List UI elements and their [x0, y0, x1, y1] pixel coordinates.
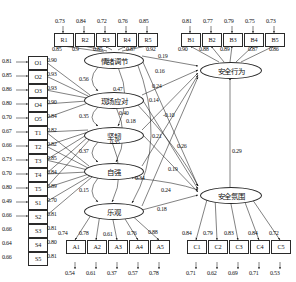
indicator-c5[interactable]: C5	[271, 240, 291, 254]
cov-qxtj-lg: 0.21	[152, 133, 161, 139]
indicator-o3[interactable]: O3	[28, 84, 48, 98]
error-a2: 0.61	[86, 270, 95, 276]
indicator-r4[interactable]: R4	[117, 33, 137, 47]
indicator-r5[interactable]: R5	[138, 33, 158, 47]
error-o4: 0.80	[2, 100, 11, 106]
indicator-o4[interactable]: O4	[28, 98, 48, 112]
loading-r3: 0.85	[93, 46, 102, 52]
indicator-b4[interactable]: B4	[244, 33, 264, 47]
indicator-a1[interactable]: A1	[66, 240, 86, 254]
indicator-t4[interactable]: T4	[28, 168, 48, 182]
indicator-t1[interactable]: T1	[28, 126, 48, 140]
path-jr-aqfw: 0.24	[161, 187, 170, 193]
cov-qxtj-jr: 0.47	[113, 86, 122, 92]
indicator-a4[interactable]: A4	[129, 240, 149, 254]
indicator-a5[interactable]: A5	[150, 240, 170, 254]
cov-qxtj-xcyd: 0.56	[79, 76, 88, 82]
indicator-s1[interactable]: S1	[28, 196, 48, 210]
loading-b4: 0.87	[248, 46, 257, 52]
loading-a5: 0.88	[148, 229, 157, 235]
loading-t4: 0.84	[47, 169, 56, 175]
error-o5: 0.70	[2, 114, 11, 120]
path-qxtj-aqxw: 0.19	[158, 53, 167, 59]
error-t3: 0.73	[2, 156, 11, 162]
cov-zq-lg: 0.15	[79, 187, 88, 193]
error-a1: 0.54	[65, 270, 74, 276]
loading-c2: 0.79	[203, 230, 212, 236]
indicator-r2[interactable]: R2	[75, 33, 95, 47]
indicator-c2[interactable]: C2	[208, 240, 228, 254]
loading-r4: 0.87	[126, 46, 135, 52]
loading-s4: 0.80	[47, 239, 56, 245]
error-b3: 0.79	[224, 18, 233, 24]
indicator-o2[interactable]: O2	[28, 70, 48, 84]
indicator-b5[interactable]: B5	[265, 33, 285, 47]
indicator-b2[interactable]: B2	[202, 33, 222, 47]
error-t2: 0.66	[2, 142, 11, 148]
path-qxtj-aqfw: 0.26	[177, 143, 186, 149]
indicator-c1[interactable]: C1	[187, 240, 207, 254]
error-t5: 0.80	[2, 184, 11, 190]
path-lg-aqxw: -0.10	[163, 112, 174, 118]
loading-c4: 0.84	[248, 230, 257, 236]
loading-o5: 0.84	[47, 113, 56, 119]
error-r2: 0.84	[76, 18, 85, 24]
latent-safety-behavior[interactable]: 安全行为	[200, 62, 262, 79]
error-c4: 0.71	[249, 270, 258, 276]
indicator-s5[interactable]: S5	[28, 252, 48, 266]
error-c2: 0.62	[207, 270, 216, 276]
error-a4: 0.57	[128, 270, 137, 276]
path-jr-aqxw: 0.24	[152, 83, 161, 89]
cov-jr-zq: 0.37	[79, 148, 88, 154]
loading-s5: 0.81	[47, 253, 56, 259]
indicator-a2[interactable]: A2	[87, 240, 107, 254]
loading-c3: 0.83	[224, 230, 233, 236]
error-c3: 0.69	[228, 270, 237, 276]
error-s1: 0.49	[2, 198, 11, 204]
loading-o4: 0.90	[47, 99, 56, 105]
error-a3: 0.37	[107, 270, 116, 276]
indicator-c3[interactable]: C3	[229, 240, 249, 254]
loading-a4: 0.76	[127, 230, 136, 236]
indicator-r3[interactable]: R3	[96, 33, 116, 47]
loading-t5: 0.89	[47, 183, 56, 189]
loading-b2: 0.88	[199, 46, 208, 52]
cov-xcyd-jr: 0.35	[79, 113, 88, 119]
error-b2: 0.77	[203, 18, 212, 24]
path-xcyd-aqfw: 0.19	[168, 166, 177, 172]
loading-c1: 0.84	[182, 230, 191, 236]
loading-s2: 0.81	[47, 211, 56, 217]
indicator-s4[interactable]: S4	[28, 238, 48, 252]
indicator-t5[interactable]: T5	[28, 182, 48, 196]
indicator-o5[interactable]: O5	[28, 112, 48, 126]
path-lg-aqfw: 0.18	[157, 206, 166, 212]
sem-diagram: 情绪调节 现场应对 坚韧 自强 乐观 安全行为 安全氛围 R1 R2 R3 R4…	[0, 0, 296, 282]
indicator-t2[interactable]: T2	[28, 140, 48, 154]
indicator-c4[interactable]: C4	[250, 240, 270, 254]
loading-o1: 0.90	[47, 57, 56, 63]
indicator-t3[interactable]: T3	[28, 154, 48, 168]
loading-a3: 0.61	[103, 231, 112, 237]
indicator-o1[interactable]: O1	[28, 56, 48, 70]
error-t4: 0.70	[2, 170, 11, 176]
loading-t1: 0.82	[47, 127, 56, 133]
loading-r1: 0.85	[52, 46, 61, 52]
latent-safety-climate[interactable]: 安全氛围	[200, 187, 262, 204]
error-a5: 0.78	[149, 270, 158, 276]
error-o2: 0.85	[2, 72, 11, 78]
indicator-b3[interactable]: B3	[223, 33, 243, 47]
cov-xcyd-zq: 0.40	[119, 110, 128, 116]
indicator-r1[interactable]: R1	[54, 33, 74, 47]
indicator-b1[interactable]: B1	[181, 33, 201, 47]
loading-b5: 0.86	[269, 46, 278, 52]
latent-emotion-regulation[interactable]: 情绪调节	[84, 52, 144, 69]
latent-optimism[interactable]: 乐观	[84, 203, 144, 220]
latent-on-site-response[interactable]: 现场应对	[84, 92, 144, 109]
indicator-s3[interactable]: S3	[28, 224, 48, 238]
path-zq-aqxw: 0.14	[149, 97, 158, 103]
indicator-s2[interactable]: S2	[28, 210, 48, 224]
error-r3: 0.72	[97, 18, 106, 24]
loading-a1: 0.74	[58, 230, 67, 236]
error-c5: 0.53	[270, 270, 279, 276]
indicator-a3[interactable]: A3	[108, 240, 128, 254]
